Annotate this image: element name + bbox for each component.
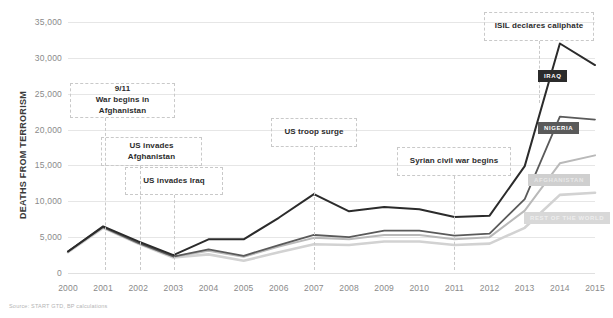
source-note: Source: START GTD, BP calculations (9, 303, 107, 309)
annotation-us-invades-iraq: US invades Iraq (125, 167, 223, 195)
series-tag-rest-of-the-world: REST OF THE WORLD (524, 212, 610, 224)
y-tick-35000: 35,000 (35, 17, 62, 27)
annotation-us-troop-surge: US troop surge (271, 118, 357, 147)
leader-syrian-civil-war (454, 176, 455, 270)
series-tag-nigeria: NIGERIA (538, 122, 579, 134)
annotation-us-invades-afghanistan: US invades Afghanistan (101, 137, 202, 166)
x-tick-2015: 2015 (585, 283, 605, 293)
y-tick-5000: 5,000 (40, 232, 62, 242)
series-tag-iraq: IRAQ (538, 70, 567, 82)
series-tag-afghanistan: AFGHANISTAN (528, 174, 590, 186)
x-tick-2013: 2013 (515, 283, 535, 293)
x-tick-2011: 2011 (445, 283, 464, 293)
y-axis-title: DEATHS FROM TERRORISM (18, 70, 28, 240)
annotation-syrian-civil-war-label: Syrian civil war begins (410, 156, 499, 167)
annotation-9-11-line1: 9/11 (115, 84, 131, 95)
gridline-0 (68, 273, 595, 274)
annotation-isil-caliphate-label: ISIL declares caliphate (495, 21, 583, 32)
series-tag-iraq-label: IRAQ (544, 73, 561, 79)
series-tag-rest-of-the-world-label: REST OF THE WORLD (530, 215, 604, 221)
annotation-us-troop-surge-label: US troop surge (284, 127, 343, 138)
annotation-syrian-civil-war: Syrian civil war begins (397, 147, 511, 176)
annotation-isil-caliphate: ISIL declares caliphate (484, 12, 594, 41)
y-tick-30000: 30,000 (35, 53, 62, 63)
annotation-us-invades-afghanistan-label: US invades Afghanistan (108, 141, 195, 163)
x-tick-2014: 2014 (550, 283, 570, 293)
series-tag-afghanistan-label: AFGHANISTAN (534, 177, 584, 183)
y-tick-15000: 15,000 (35, 160, 62, 170)
x-tick-2009: 2009 (374, 283, 394, 293)
y-tick-25000: 25,000 (35, 89, 62, 99)
x-tick-2001: 2001 (93, 283, 113, 293)
terrorism-deaths-chart: DEATHS FROM TERRORISM 35,000 30,000 25,0… (0, 0, 613, 318)
x-tick-2000: 2000 (58, 283, 78, 293)
annotation-9-11-line2: War begins in Afghanistan (77, 95, 168, 117)
x-tick-2012: 2012 (480, 283, 500, 293)
leader-us-troop-surge (314, 147, 315, 270)
x-tick-2006: 2006 (269, 283, 289, 293)
y-tick-0: 0 (57, 268, 62, 278)
annotation-us-invades-iraq-label: US invades Iraq (143, 176, 205, 187)
y-tick-10000: 10,000 (35, 196, 62, 206)
x-tick-2008: 2008 (339, 283, 359, 293)
x-tick-2004: 2004 (199, 283, 219, 293)
y-tick-20000: 20,000 (35, 125, 62, 135)
x-tick-2005: 2005 (234, 283, 254, 293)
series-tag-nigeria-label: NIGERIA (544, 125, 573, 131)
x-tick-2010: 2010 (409, 283, 429, 293)
leader-us-invades-iraq (174, 195, 175, 270)
x-tick-2003: 2003 (164, 283, 184, 293)
x-tick-2007: 2007 (304, 283, 324, 293)
x-tick-2002: 2002 (128, 283, 148, 293)
annotation-9-11: 9/11 War begins in Afghanistan (70, 83, 175, 118)
